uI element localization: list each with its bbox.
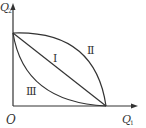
- region-label-I: Ⅰ: [53, 52, 57, 65]
- origin-label: O: [6, 113, 16, 127]
- y-axis-subscript: 2: [8, 7, 12, 14]
- region-label-III: Ⅲ: [26, 85, 37, 98]
- x-axis-arrow-icon: [131, 104, 138, 109]
- ppf-diagram: Ⅰ Ⅱ Ⅲ O Q 2 Q 1: [0, 0, 146, 128]
- region-label-II: Ⅱ: [87, 44, 94, 57]
- x-axis-subscript: 1: [130, 119, 134, 126]
